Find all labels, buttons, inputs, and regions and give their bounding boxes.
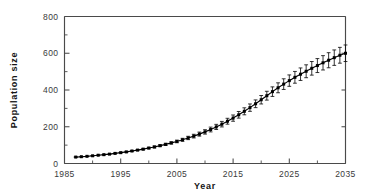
x-tick-label: 2025 [279,169,300,179]
y-tick-label: 800 [43,12,58,22]
y-tick-label: 200 [43,122,58,132]
y-axis-title: Population size [9,52,19,129]
population-growth-chart: 0200400600800 198519952005201520252035 P… [0,0,367,195]
x-tick-label: 2015 [223,169,244,179]
x-tick-label: 1985 [54,169,75,179]
y-tick-label: 0 [53,159,58,169]
x-tick-label: 1995 [110,169,131,179]
x-tick-label: 2035 [335,169,356,179]
y-tick-label: 400 [43,85,58,95]
chart-figure: 0200400600800 198519952005201520252035 P… [0,0,367,195]
x-tick-label: 2005 [167,169,188,179]
x-axis-title: Year [194,181,216,191]
y-tick-label: 600 [43,48,58,58]
